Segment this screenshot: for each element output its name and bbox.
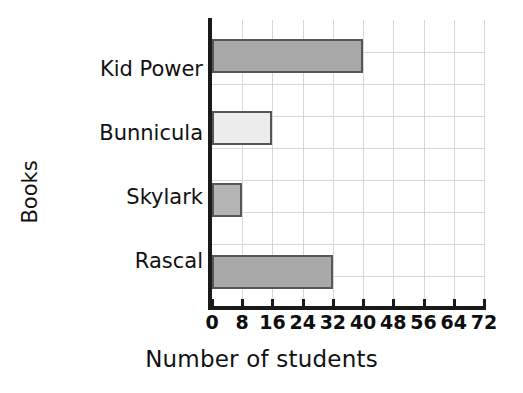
gridline-vertical — [363, 20, 364, 308]
bar-kid-power — [212, 39, 363, 73]
x-tick-label-56: 56 — [410, 311, 436, 333]
x-tick-label-40: 40 — [350, 311, 376, 333]
x-tick-mark — [271, 299, 274, 308]
gridline-horizontal — [212, 84, 484, 85]
y-tick-label-rascal: Rascal — [135, 244, 203, 278]
bar-chart-figure: Books Read Books Kid Power Bunnicula Sky… — [0, 0, 523, 393]
gridline-vertical — [424, 20, 425, 308]
x-tick-label-32: 32 — [320, 311, 346, 333]
bar-bunnicula — [212, 111, 272, 145]
bar-rascal — [212, 255, 333, 289]
x-tick-mark — [211, 299, 214, 308]
bar-skylark — [212, 183, 242, 217]
gridline-horizontal — [212, 212, 484, 213]
chart-title-cropped: Books Read — [26, 0, 226, 4]
x-tick-mark — [453, 299, 456, 308]
plot-area — [212, 20, 484, 308]
gridline-vertical — [454, 20, 455, 308]
y-tick-label-bunnicula: Bunnicula — [99, 116, 203, 150]
x-tick-label-48: 48 — [380, 311, 406, 333]
gridline-vertical — [393, 20, 394, 308]
x-tick-mark — [423, 299, 426, 308]
x-tick-mark — [241, 299, 244, 308]
gridline-horizontal — [212, 244, 484, 245]
x-tick-label-0: 0 — [205, 311, 218, 333]
x-tick-mark — [362, 299, 365, 308]
x-tick-label-24: 24 — [289, 311, 315, 333]
x-axis-title: Number of students — [0, 346, 523, 372]
gridline-horizontal — [212, 148, 484, 149]
y-tick-label-kid-power: Kid Power — [100, 52, 203, 86]
x-tick-label-16: 16 — [259, 311, 285, 333]
y-axis-title: Books — [8, 112, 52, 272]
y-tick-label-skylark: Skylark — [126, 180, 203, 214]
x-tick-label-64: 64 — [441, 311, 467, 333]
x-axis-line — [208, 306, 486, 310]
x-tick-mark — [302, 299, 305, 308]
gridline-horizontal — [212, 180, 484, 181]
x-tick-mark — [332, 299, 335, 308]
y-axis-line — [208, 18, 212, 310]
x-tick-label-72: 72 — [471, 311, 497, 333]
x-tick-mark — [392, 299, 395, 308]
gridline-vertical — [484, 20, 485, 308]
x-tick-mark — [483, 299, 486, 308]
x-tick-label-8: 8 — [236, 311, 249, 333]
y-axis-tick-labels: Kid Power Bunnicula Skylark Rascal — [52, 20, 207, 308]
